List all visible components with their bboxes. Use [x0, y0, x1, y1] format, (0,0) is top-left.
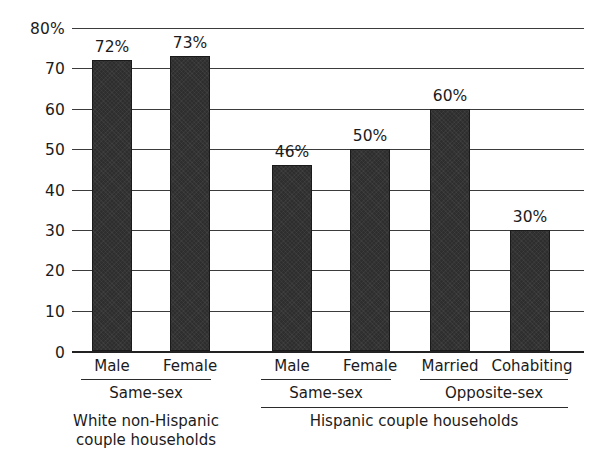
bar-hispanic-opposite-cohabiting[interactable]: 30%: [510, 230, 550, 351]
group-label-white-samesex: Same-sex: [109, 384, 183, 402]
gridline-60: 60: [72, 109, 584, 110]
gridline-40: 40: [72, 190, 584, 191]
supergroup-label-line2: couple households: [36, 431, 256, 450]
group-rule-white-samesex: [81, 379, 211, 380]
y-tick-label-10: 10: [45, 303, 65, 321]
group-rule-hispanic-opposite: [420, 379, 568, 380]
bar-value-label: 73%: [173, 34, 207, 52]
gridline-10: 10: [72, 311, 584, 312]
bar-value-label: 60%: [433, 87, 467, 105]
x-label-hispanic-samesex-female: Female: [343, 357, 397, 375]
supergroup-label-white-non-hispanic: White non-Hispanic couple households: [36, 412, 256, 450]
supergroup-label-line1: Hispanic couple households: [264, 412, 564, 431]
y-tick-label-60: 60: [45, 101, 65, 119]
bar-chart: 80% 70 60 50 40 30 20 10 0 72% 73%: [0, 0, 598, 468]
y-tick-label-40: 40: [45, 182, 65, 200]
y-tick-label-0: 0: [55, 344, 65, 362]
bar-hispanic-opposite-married[interactable]: 60%: [430, 109, 470, 351]
plot-area: 80% 70 60 50 40 30 20 10 0 72% 73%: [72, 28, 584, 351]
y-tick-label-20: 20: [45, 262, 65, 280]
group-rule-hispanic-samesex: [261, 379, 391, 380]
bar-value-label: 30%: [513, 208, 547, 226]
axis-baseline-0: 0: [72, 351, 584, 353]
bar-value-label: 46%: [275, 143, 309, 161]
gridline-80: 80%: [72, 28, 584, 29]
y-tick-label-50: 50: [45, 141, 65, 159]
supergroup-label-hispanic: Hispanic couple households: [264, 412, 564, 431]
x-label-hispanic-opposite-cohabiting: Cohabiting: [491, 357, 572, 375]
y-tick-label-70: 70: [45, 60, 65, 78]
x-label-white-samesex-female: Female: [163, 357, 217, 375]
y-tick-label-80: 80%: [30, 20, 65, 38]
x-label-hispanic-opposite-married: Married: [421, 357, 478, 375]
bar-white-samesex-female[interactable]: 73%: [170, 56, 210, 351]
group-label-hispanic-opposite: Opposite-sex: [445, 384, 543, 402]
x-label-white-samesex-male: Male: [94, 357, 130, 375]
gridline-20: 20: [72, 270, 584, 271]
bar-white-samesex-male[interactable]: 72%: [92, 60, 132, 351]
bar-hispanic-samesex-female[interactable]: 50%: [350, 149, 390, 351]
gridline-30: 30: [72, 230, 584, 231]
bar-value-label: 72%: [95, 38, 129, 56]
gridline-50: 50: [72, 149, 584, 150]
x-label-hispanic-samesex-male: Male: [274, 357, 310, 375]
bar-hispanic-samesex-male[interactable]: 46%: [272, 165, 312, 351]
gridline-70: 70: [72, 68, 584, 69]
supergroup-rule-hispanic: [261, 407, 568, 408]
supergroup-label-line1: White non-Hispanic: [36, 412, 256, 431]
bar-value-label: 50%: [353, 127, 387, 145]
y-tick-label-30: 30: [45, 222, 65, 240]
group-label-hispanic-samesex: Same-sex: [289, 384, 363, 402]
